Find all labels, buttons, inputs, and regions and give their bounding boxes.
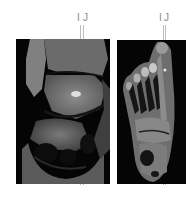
marker-label-i-left: I (77, 13, 80, 23)
marker-label-i-right: I (159, 13, 162, 23)
marker-label-j-left: J (83, 13, 88, 23)
ankle-coronal-image (16, 39, 110, 184)
mri-panel-coronal (16, 39, 110, 184)
marker-label-j-right: J (164, 13, 169, 23)
foot-axial-image (117, 40, 186, 184)
mri-panel-axial (117, 40, 186, 184)
